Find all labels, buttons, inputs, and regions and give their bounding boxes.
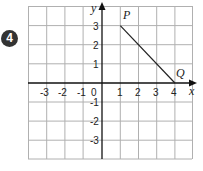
axes	[28, 7, 191, 159]
y-tick: 3	[93, 21, 99, 32]
x-tick: 2	[135, 87, 141, 98]
segment-pq	[120, 26, 175, 83]
y-tick: 2	[93, 40, 99, 51]
x-tick: 1	[117, 87, 123, 98]
y-tick: 1	[93, 59, 99, 70]
x-tick: -2	[58, 87, 67, 98]
x-tick: -3	[40, 87, 49, 98]
y-axis-label: y	[90, 1, 97, 15]
y-tick: -3	[90, 135, 99, 146]
y-tick: -2	[90, 116, 99, 127]
point-q-label: Q	[176, 66, 185, 80]
x-axis-label: x	[188, 84, 195, 98]
x-tick: 3	[153, 87, 159, 98]
point-p-label: P	[122, 8, 131, 22]
coordinate-grid: y x P Q -3 -2 -1 0 1 2 3 4 3 2 1 -1 -2 -…	[0, 0, 203, 171]
y-tick: -1	[90, 97, 99, 108]
x-tick: 4	[171, 87, 177, 98]
x-tick: -1	[77, 87, 86, 98]
